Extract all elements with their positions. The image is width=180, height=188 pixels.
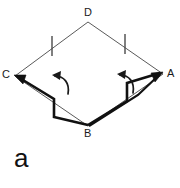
vertex-label-d: D [84, 7, 92, 18]
fold-path-right [88, 73, 160, 125]
fold-path-left [18, 77, 88, 125]
rotation-arrow-left-head-icon [52, 71, 61, 80]
figure-panel-a: D A B C a [0, 0, 180, 188]
quadrilateral-outline [15, 22, 163, 126]
vertex-label-b: B [84, 128, 91, 139]
rotation-arrow-right-head-icon [117, 70, 126, 79]
vertex-label-c: C [2, 69, 10, 80]
vertex-label-a: A [167, 68, 174, 79]
rotation-arrow-left-icon [55, 76, 68, 94]
panel-caption-label: a [14, 145, 28, 171]
